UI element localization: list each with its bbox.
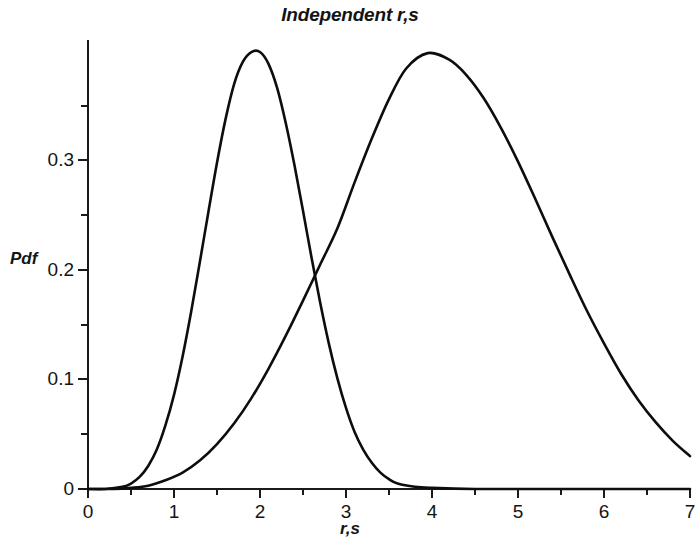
- x-tick-label: 7: [685, 501, 696, 523]
- x-tick-label: 1: [169, 501, 180, 523]
- chart-figure: Independent r,s Pdf r,s 0123456700.10.20…: [0, 0, 700, 551]
- curve-s: [88, 53, 690, 489]
- y-tick-label: 0.1: [48, 368, 74, 390]
- x-tick-label: 0: [83, 501, 94, 523]
- y-tick-label: 0: [63, 478, 74, 500]
- x-tick-label: 4: [427, 501, 438, 523]
- y-tick-label: 0.3: [48, 149, 74, 171]
- x-tick-label: 6: [599, 501, 610, 523]
- x-tick-label: 2: [255, 501, 266, 523]
- curve-r: [88, 51, 690, 489]
- curves-group: [88, 51, 690, 489]
- y-tick-label: 0.2: [48, 259, 74, 281]
- x-tick-label: 5: [513, 501, 524, 523]
- x-tick-label: 3: [341, 501, 352, 523]
- plot-area: [0, 0, 700, 551]
